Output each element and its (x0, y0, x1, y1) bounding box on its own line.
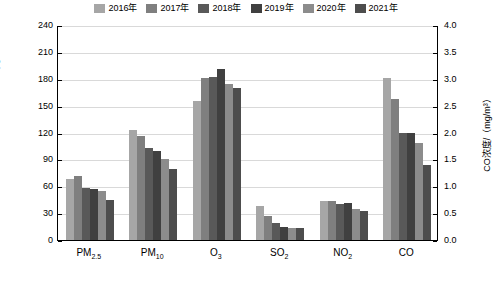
x-axis-tick-label: NO2 (311, 247, 375, 260)
bar-NO2-2017年 (328, 201, 336, 240)
y-axis-tickmark (58, 160, 62, 161)
gridline (58, 134, 437, 135)
legend-label: 2016年 (108, 4, 137, 13)
bar-CO-2016年 (383, 78, 391, 240)
bar-NO2-2019年 (344, 203, 352, 240)
legend-item-2020年: 2020年 (303, 4, 346, 13)
bar-SO2-2018年 (272, 223, 280, 240)
y-axis-tickmark (58, 80, 62, 81)
bar-SO2-2016年 (256, 206, 264, 240)
x-axis-tick-label: CO (375, 247, 439, 258)
y-axis-right-tick-label: 2.5 (444, 101, 484, 111)
legend-label: 2020年 (317, 4, 346, 13)
bar-group-NO2 (320, 25, 368, 240)
y-axis-right-tick-label: 1.0 (444, 181, 484, 191)
legend-swatch-icon (94, 4, 105, 13)
y-axis-left-tick-label: 30 (13, 208, 53, 218)
bar-PM10-2016年 (129, 130, 137, 240)
gridline (58, 214, 437, 215)
bar-PM10-2020年 (161, 159, 169, 240)
y-axis-left-tick-label: 120 (13, 128, 53, 138)
y-axis-right-tick-label: 0.5 (444, 208, 484, 218)
y-axis-left-tick-label: 150 (13, 101, 53, 111)
legend-swatch-icon (198, 4, 209, 13)
y-axis-tickmark (433, 134, 437, 135)
bar-PM10-2017年 (137, 136, 145, 240)
y-axis-tickmark (58, 26, 62, 27)
y-axis-right-tick-label: 4.0 (444, 20, 484, 30)
legend-item-2021年: 2021年 (355, 4, 398, 13)
legend-label: 2017年 (160, 4, 189, 13)
y-axis-tickmark (433, 160, 437, 161)
bar-PM10-2018年 (145, 148, 153, 240)
bar-group-PM2.5 (66, 25, 114, 240)
bar-group-SO2 (256, 25, 304, 240)
bar-CO-2018年 (399, 133, 407, 241)
y-axis-right-tick-label: 2.0 (444, 128, 484, 138)
bar-CO-2019年 (407, 133, 415, 241)
bar-NO2-2018年 (336, 204, 344, 240)
legend-swatch-icon (146, 4, 157, 13)
x-axis-tick-label: PM2.5 (57, 247, 121, 260)
y-axis-tickmark (58, 214, 62, 215)
y-axis-right-tick-label: 3.0 (444, 74, 484, 84)
bar-NO2-2021年 (360, 211, 368, 240)
bar-O3-2016年 (193, 101, 201, 240)
bar-PM2.5-2020年 (98, 191, 106, 240)
legend-swatch-icon (303, 4, 314, 13)
bar-PM2.5-2017年 (74, 176, 82, 240)
bar-PM2.5-2019年 (90, 189, 98, 240)
legend-label: 2021年 (369, 4, 398, 13)
bar-PM2.5-2021年 (106, 200, 114, 240)
bar-group-O3 (193, 25, 241, 240)
y-axis-tickmark (433, 241, 437, 242)
legend-label: 2019年 (265, 4, 294, 13)
y-axis-tickmark (433, 107, 437, 108)
bar-CO-2020年 (415, 143, 423, 240)
y-axis-right-title: CO浓度/（mg/m³） (480, 94, 493, 172)
bar-SO2-2019年 (280, 227, 288, 240)
y-axis-tickmark (58, 187, 62, 188)
y-axis-right-tick-label: 3.5 (444, 47, 484, 57)
gridline (58, 107, 437, 108)
legend-swatch-icon (251, 4, 262, 13)
y-axis-right-tick-label: 0.0 (444, 235, 484, 245)
bar-CO-2017年 (391, 99, 399, 240)
bar-SO2-2020年 (288, 228, 296, 240)
y-axis-tickmark (58, 241, 62, 242)
x-axis-tick-label: SO2 (248, 247, 312, 260)
chart-legend: 2016年2017年2018年2019年2020年2021年 (0, 4, 492, 13)
gridline (58, 26, 437, 27)
y-axis-tickmark (433, 187, 437, 188)
y-axis-left-tick-label: 60 (13, 181, 53, 191)
bar-NO2-2020年 (352, 209, 360, 240)
x-axis-tick-label: O3 (184, 247, 248, 260)
legend-label: 2018年 (212, 4, 241, 13)
bar-group-PM10 (129, 25, 177, 240)
bar-O3-2018年 (209, 77, 217, 240)
gridline (58, 80, 437, 81)
bar-SO2-2021年 (296, 228, 304, 240)
gridline (58, 53, 437, 54)
legend-item-2017年: 2017年 (146, 4, 189, 13)
bar-CO-2021年 (423, 165, 431, 240)
y-axis-tickmark (58, 107, 62, 108)
bar-PM2.5-2018年 (82, 188, 90, 240)
y-axis-tickmark (433, 214, 437, 215)
x-axis-tick-label: PM10 (121, 247, 185, 260)
bar-SO2-2017年 (264, 216, 272, 240)
y-axis-left-tick-label: 210 (13, 47, 53, 57)
y-axis-tickmark (58, 53, 62, 54)
bar-PM10-2019年 (153, 151, 161, 240)
bar-O3-2017年 (201, 78, 209, 240)
legend-item-2018年: 2018年 (198, 4, 241, 13)
bar-NO2-2016年 (320, 201, 328, 240)
bar-PM2.5-2016年 (66, 179, 74, 240)
y-axis-left-tick-label: 90 (13, 154, 53, 164)
plot-area: 00.0300.5601.0901.51202.01502.51803.0210… (57, 26, 438, 241)
bar-O3-2020年 (225, 84, 233, 240)
bar-group-CO (383, 25, 431, 240)
y-axis-left-title: 污染物浓度（除CO外）/（μg/m³） (0, 37, 1, 175)
y-axis-tickmark (433, 80, 437, 81)
